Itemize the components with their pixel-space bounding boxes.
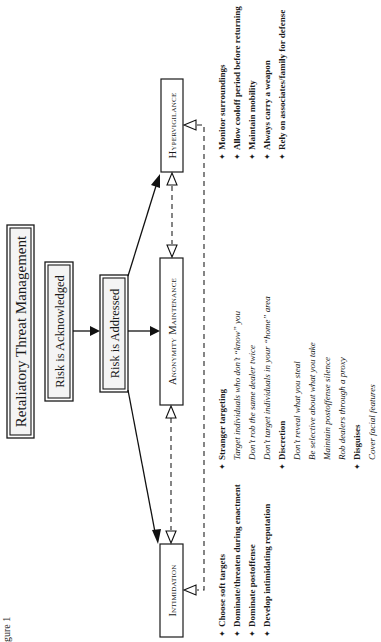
svg-text:Dominate postoffense: Dominate postoffense — [247, 544, 257, 627]
list-item: Target individuals who don’t “know” you — [232, 310, 242, 460]
list-item: ✦ Allow cooloff period before returning — [232, 6, 242, 160]
list-heading: ✦ Disguises — [352, 424, 362, 470]
arrow-to-intimidation — [128, 390, 155, 532]
list-item: ✦ Maintain mobility — [247, 80, 257, 160]
list-item: Maintain postoffense silence — [322, 357, 332, 461]
svg-text:✦: ✦ — [278, 463, 287, 470]
list-item: ✦ Develop intimidating reputation — [262, 504, 272, 637]
list-item: ✦ Choose soft targets — [217, 554, 227, 637]
figure-caption: gure 1 — [1, 617, 12, 642]
svg-text:Monitor surroundings: Monitor surroundings — [217, 64, 227, 150]
svg-text:Always carry a weapon: Always carry a weapon — [262, 60, 272, 150]
svg-text:✦: ✦ — [263, 153, 272, 160]
dashed-link-hyper-intim — [197, 125, 204, 590]
open-arrowhead-icon — [166, 406, 176, 418]
open-arrowhead-icon — [167, 173, 177, 185]
open-arrowhead-icon — [167, 245, 177, 257]
svg-text:Maintain mobility: Maintain mobility — [247, 80, 257, 150]
list-item: ✦ Dominate/threaten during enactment — [232, 484, 242, 637]
intimidation-list: ✦ Choose soft targets ✦ Dominate/threate… — [217, 484, 272, 637]
anonymity-maintenance-label: Anonymity Maintenance — [167, 278, 178, 385]
open-arrowhead-icon — [184, 585, 196, 595]
svg-text:Develop intimidating reputatio: Develop intimidating reputation — [262, 504, 272, 627]
svg-text:Dominate/threaten during enact: Dominate/threaten during enactment — [232, 484, 242, 627]
svg-text:✦: ✦ — [218, 153, 227, 160]
list-item: Don’t target individuals in your “home” … — [262, 296, 272, 461]
svg-text:✦: ✦ — [233, 153, 242, 160]
diagram-title: Retaliatory Threat Management — [13, 235, 29, 427]
hypervigilance-list: ✦ Monitor surroundings ✦ Allow cooloff p… — [217, 6, 287, 160]
list-heading: ✦ Stranger targeting — [217, 388, 227, 470]
list-item: Cover facial features — [367, 384, 377, 460]
svg-text:✦: ✦ — [278, 153, 287, 160]
hypervigilance-box: Hypervigilance — [161, 79, 183, 172]
title-box: Retaliatory Threat Management — [7, 225, 34, 438]
open-arrowhead-icon — [166, 531, 176, 543]
list-item: Rob dealers through a proxy — [337, 357, 347, 461]
list-item: ✦ Dominate postoffense — [247, 544, 257, 637]
svg-text:Allow cooloff period before re: Allow cooloff period before returning — [232, 6, 242, 150]
arrowhead-icon — [152, 529, 161, 544]
list-item: ✦ Always carry a weapon — [262, 60, 272, 160]
svg-text:Rely on associates/family for: Rely on associates/family for defense — [277, 10, 287, 150]
hypervigilance-label: Hypervigilance — [167, 93, 178, 159]
list-item: ✦ Rely on associates/family for defense — [277, 10, 287, 160]
anonymity-maintenance-box: Anonymity Maintenance — [160, 258, 183, 405]
list-heading: ✦ Discretion — [277, 421, 287, 470]
svg-text:Disguises: Disguises — [352, 424, 362, 460]
list-item: Don’t rob the same dealer twice — [247, 345, 257, 461]
svg-text:✦: ✦ — [218, 463, 227, 470]
svg-text:Stranger targeting: Stranger targeting — [217, 388, 227, 460]
svg-text:✦: ✦ — [353, 463, 362, 470]
list-item: Don’t reveal what you steal — [292, 361, 302, 461]
svg-text:Discretion: Discretion — [277, 421, 287, 460]
arrowhead-icon — [151, 174, 160, 188]
svg-text:✦: ✦ — [233, 630, 242, 637]
list-item: ✦ Monitor surroundings — [217, 64, 227, 160]
risk-addressed-box: Risk is Addressed — [100, 275, 128, 392]
intimidation-label: Intimidation — [167, 564, 178, 616]
svg-text:✦: ✦ — [218, 630, 227, 637]
risk-acknowledged-label: Risk is Acknowledged — [53, 275, 67, 388]
svg-text:✦: ✦ — [263, 630, 272, 637]
risk-acknowledged-box: Risk is Acknowledged — [45, 262, 73, 401]
svg-text:✦: ✦ — [248, 630, 257, 637]
risk-addressed-label: Risk is Addressed — [108, 288, 122, 378]
list-item: Be selective about what you take — [307, 342, 317, 460]
arrowhead-icon — [90, 326, 100, 336]
svg-text:✦: ✦ — [248, 153, 257, 160]
intimidation-box: Intimidation — [160, 544, 183, 637]
open-arrowhead-icon — [184, 120, 196, 130]
arrow-to-hypervigilance — [128, 186, 156, 276]
anonymity-list: ✦ Stranger targeting Target individuals … — [217, 296, 377, 470]
svg-text:Choose soft targets: Choose soft targets — [217, 554, 227, 627]
arrowhead-icon — [150, 326, 160, 336]
threat-management-diagram: gure 1 Retaliatory Threat Management Ris… — [0, 0, 381, 642]
